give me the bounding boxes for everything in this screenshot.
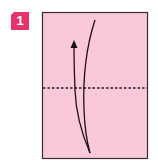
paper-sheet [43,13,148,159]
fold-diagram [0,0,158,166]
